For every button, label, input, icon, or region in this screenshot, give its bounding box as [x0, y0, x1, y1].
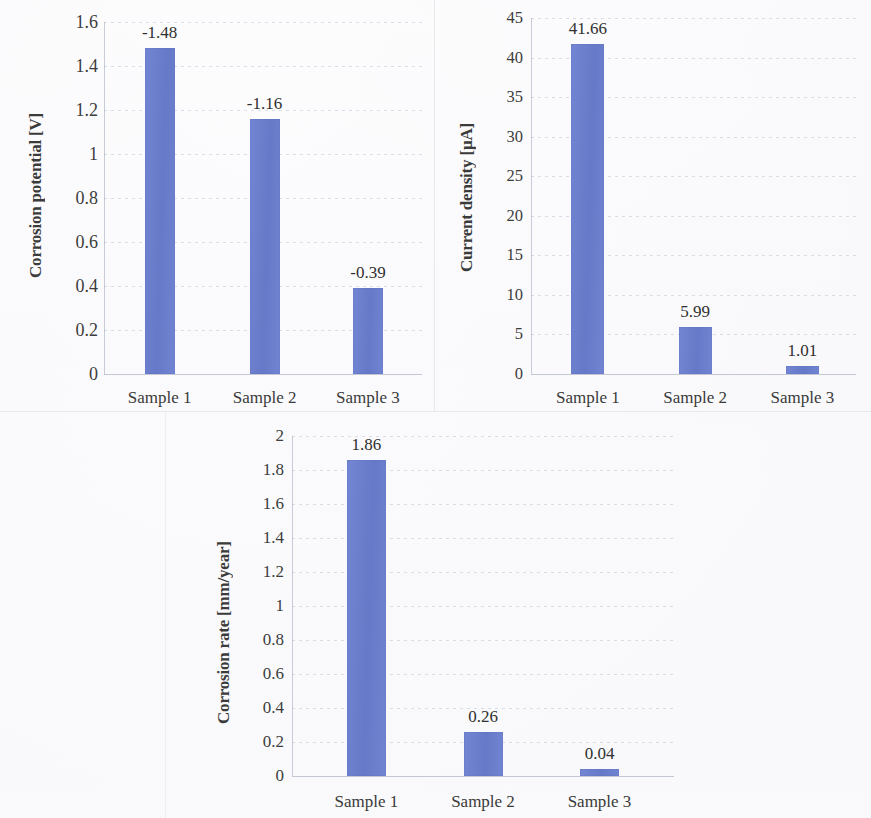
y-axis-line	[531, 18, 532, 374]
bar-value-label: 41.66	[569, 19, 607, 39]
x-axis-category-label: Sample 2	[451, 792, 515, 812]
plot-area-corrosion-potential	[104, 22, 422, 374]
y-axis-tick-labels-corrosion-potential: 1.61.41.210.80.60.40.20	[40, 0, 98, 412]
y-axis-tick-label: 1.8	[263, 460, 284, 480]
y-axis-tick-label: 0.8	[76, 188, 99, 209]
y-axis-tick-label: 5	[515, 324, 523, 344]
y-axis-tick-label: 0.4	[263, 698, 284, 718]
bar-value-label: 0.26	[468, 707, 498, 727]
bar-value-label: -1.16	[247, 94, 282, 114]
x-axis-baseline	[104, 374, 422, 375]
bar-value-label: 1.86	[352, 435, 382, 455]
y-axis-tick-label: 0.8	[263, 630, 284, 650]
y-axis-line	[104, 22, 105, 374]
x-axis-baseline	[531, 374, 856, 375]
y-axis-tick-label: 0.4	[76, 276, 99, 297]
bar-sample-2[interactable]	[250, 119, 280, 374]
y-axis-tick-label: 1.6	[263, 494, 284, 514]
x-axis-category-label: Sample 3	[568, 792, 632, 812]
y-axis-tick-labels-corrosion-rate: 21.81.61.41.210.80.60.40.20	[228, 412, 284, 818]
x-axis-category-label: Sample 1	[335, 792, 399, 812]
chart-current-density: Current density [µA] 454035302520151050 …	[435, 0, 871, 412]
y-axis-tick-label: 1.4	[263, 528, 284, 548]
y-axis-line	[292, 436, 293, 776]
y-axis-tick-label: 1	[276, 596, 285, 616]
y-axis-tick-label: 20	[507, 206, 524, 226]
bar-value-label: 0.04	[585, 744, 615, 764]
bar-sample-2[interactable]	[679, 327, 712, 374]
bar-sample-1[interactable]	[571, 44, 604, 374]
y-axis-tick-label: 1.4	[76, 56, 99, 77]
y-axis-tick-label: 0.2	[263, 732, 284, 752]
bar-sample-2[interactable]	[464, 732, 503, 776]
x-axis-category-label: Sample 1	[128, 388, 192, 408]
bar-sample-3[interactable]	[580, 769, 619, 776]
bar-sample-3[interactable]	[786, 366, 819, 374]
y-axis-tick-label: 1.2	[263, 562, 284, 582]
y-axis-tick-label: 0	[276, 766, 285, 786]
y-axis-tick-label: 0.6	[76, 232, 99, 253]
y-axis-tick-label: 1	[89, 144, 98, 165]
x-axis-baseline	[292, 776, 674, 777]
y-axis-tick-label: 35	[507, 87, 524, 107]
gridline	[292, 436, 674, 437]
bar-sample-3[interactable]	[353, 288, 383, 374]
y-axis-tick-label: 40	[507, 48, 524, 68]
y-axis-tick-label: 0	[89, 364, 98, 385]
y-axis-tick-label: 1.2	[76, 100, 99, 121]
bar-value-label: -1.48	[142, 23, 177, 43]
bar-value-label: -0.39	[350, 263, 385, 283]
chart-corrosion-rate: Corrosion rate [mm/year] 21.81.61.41.210…	[165, 412, 713, 818]
x-axis-category-label: Sample 3	[771, 388, 835, 408]
bar-sample-1[interactable]	[347, 460, 386, 776]
y-axis-tick-label: 25	[507, 166, 524, 186]
x-axis-category-label: Sample 2	[233, 388, 297, 408]
y-axis-tick-label: 0.6	[263, 664, 284, 684]
y-axis-tick-label: 30	[507, 127, 524, 147]
y-axis-tick-label: 2	[276, 426, 285, 446]
bar-value-label: 1.01	[788, 341, 818, 361]
y-axis-tick-labels-current-density: 454035302520151050	[469, 0, 523, 412]
y-axis-tick-label: 0	[515, 364, 523, 384]
bar-sample-1[interactable]	[145, 48, 175, 374]
y-axis-tick-label: 0.2	[76, 320, 99, 341]
y-axis-tick-label: 1.6	[76, 12, 99, 33]
x-axis-category-label: Sample 1	[556, 388, 620, 408]
x-axis-category-label: Sample 2	[663, 388, 727, 408]
chart-corrosion-potential: Corrosion potential [V] 1.61.41.210.80.6…	[0, 0, 435, 412]
bar-value-label: 5.99	[680, 302, 710, 322]
x-axis-category-label: Sample 3	[336, 388, 400, 408]
y-axis-tick-label: 10	[507, 285, 524, 305]
y-axis-tick-label: 45	[507, 8, 524, 28]
y-axis-tick-label: 15	[507, 245, 524, 265]
